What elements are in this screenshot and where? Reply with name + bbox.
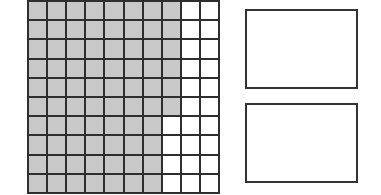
grid-cell-shaded — [105, 98, 122, 115]
grid-cell-shaded — [67, 117, 84, 134]
grid-cell-shaded — [48, 60, 65, 77]
grid-cell-shaded — [125, 2, 142, 19]
grid-cell-empty — [182, 117, 199, 134]
grid-cell-empty — [163, 117, 180, 134]
grid-cell-shaded — [29, 21, 46, 38]
grid-cell-shaded — [125, 21, 142, 38]
grid-cell-shaded — [48, 40, 65, 57]
grid-cell-shaded — [67, 2, 84, 19]
grid-cell-empty — [182, 60, 199, 77]
grid-cell-shaded — [29, 60, 46, 77]
grid-cell-shaded — [105, 60, 122, 77]
grid-cell-shaded — [144, 40, 161, 57]
grid-cell-shaded — [125, 79, 142, 96]
grid-cell-shaded — [48, 21, 65, 38]
grid-cell-shaded — [48, 175, 65, 192]
grid-cell-shaded — [29, 40, 46, 57]
grid-cell-empty — [201, 175, 218, 192]
grid-cell-shaded — [105, 156, 122, 173]
grid-cell-empty — [182, 136, 199, 153]
grid-cell-empty — [182, 21, 199, 38]
grid-cell-shaded — [29, 79, 46, 96]
grid-cell-shaded — [48, 117, 65, 134]
grid-cell-empty — [163, 136, 180, 153]
grid-cell-shaded — [163, 60, 180, 77]
grid-cell-shaded — [105, 21, 122, 38]
grid-cell-shaded — [86, 79, 103, 96]
grid-cell-shaded — [163, 79, 180, 96]
grid-cell-shaded — [144, 21, 161, 38]
grid-cell-shaded — [48, 156, 65, 173]
grid-cell-shaded — [163, 40, 180, 57]
grid-cell-shaded — [105, 117, 122, 134]
grid-cell-shaded — [125, 60, 142, 77]
grid-cell-shaded — [48, 79, 65, 96]
grid-cell-shaded — [29, 136, 46, 153]
grid-cell-shaded — [105, 40, 122, 57]
grid-cell-shaded — [144, 60, 161, 77]
grid-cell-shaded — [125, 40, 142, 57]
grid-cell-empty — [163, 175, 180, 192]
grid-cell-shaded — [144, 98, 161, 115]
grid-cell-shaded — [144, 2, 161, 19]
grid-cell-empty — [201, 136, 218, 153]
grid-cell-shaded — [86, 21, 103, 38]
grid-cell-shaded — [86, 175, 103, 192]
grid-cell-shaded — [105, 136, 122, 153]
grid-cell-shaded — [125, 156, 142, 173]
grid-cell-shaded — [29, 2, 46, 19]
grid-cell-shaded — [48, 2, 65, 19]
grid-cell-shaded — [48, 98, 65, 115]
grid-cell-shaded — [125, 98, 142, 115]
grid-cell-shaded — [163, 98, 180, 115]
grid-cell-shaded — [29, 117, 46, 134]
grid-cell-shaded — [105, 175, 122, 192]
grid-cell-shaded — [86, 60, 103, 77]
grid-cell-shaded — [125, 136, 142, 153]
grid-cell-empty — [182, 98, 199, 115]
grid-cell-empty — [201, 156, 218, 173]
grid-cell-shaded — [144, 117, 161, 134]
grid-cell-shaded — [67, 156, 84, 173]
grid-cell-empty — [182, 40, 199, 57]
answer-box-2[interactable] — [245, 103, 358, 183]
grid-cell-shaded — [105, 2, 122, 19]
grid-cell-shaded — [86, 117, 103, 134]
grid-cell-shaded — [125, 175, 142, 192]
grid-cell-shaded — [86, 156, 103, 173]
grid-cell-empty — [201, 98, 218, 115]
grid-cell-shaded — [144, 175, 161, 192]
grid-cell-shaded — [125, 117, 142, 134]
grid-cell-shaded — [29, 156, 46, 173]
grid-cell-shaded — [144, 136, 161, 153]
grid-cell-shaded — [67, 79, 84, 96]
grid-cell-shaded — [29, 175, 46, 192]
hundred-grid — [27, 0, 220, 194]
grid-cell-empty — [201, 21, 218, 38]
answer-box-1[interactable] — [245, 9, 358, 89]
grid-cell-empty — [182, 156, 199, 173]
grid-cell-shaded — [86, 136, 103, 153]
grid-cell-empty — [201, 79, 218, 96]
grid-cell-shaded — [86, 40, 103, 57]
grid-cell-shaded — [67, 175, 84, 192]
grid-cell-shaded — [67, 136, 84, 153]
grid-cell-empty — [163, 156, 180, 173]
grid-cell-shaded — [29, 98, 46, 115]
grid-cell-shaded — [67, 60, 84, 77]
grid-cell-shaded — [144, 156, 161, 173]
grid-cell-shaded — [67, 21, 84, 38]
grid-cell-shaded — [163, 21, 180, 38]
grid-cell-shaded — [67, 40, 84, 57]
grid-cell-empty — [201, 2, 218, 19]
grid-cell-empty — [182, 79, 199, 96]
grid-cell-shaded — [67, 98, 84, 115]
grid-cell-shaded — [144, 79, 161, 96]
grid-cell-empty — [201, 117, 218, 134]
grid-cell-empty — [182, 175, 199, 192]
grid-cell-shaded — [86, 98, 103, 115]
grid-cell-empty — [182, 2, 199, 19]
grid-cell-empty — [201, 40, 218, 57]
grid-cell-empty — [201, 60, 218, 77]
grid-cell-shaded — [163, 2, 180, 19]
